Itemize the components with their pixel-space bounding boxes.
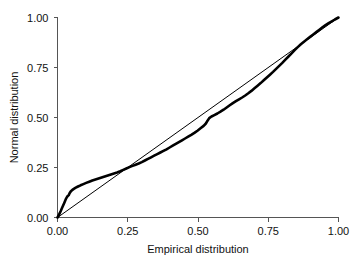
x-tick-label: 0.75 [258, 225, 279, 237]
chart-page: 0.000.250.500.751.000.000.250.500.751.00… [0, 0, 362, 265]
y-tick-label: 0.25 [27, 162, 48, 174]
y-tick-label: 0.50 [27, 112, 48, 124]
x-tick-label: 1.00 [328, 225, 349, 237]
y-tick-label: 0.00 [27, 212, 48, 224]
y-axis-title: Normal distribution [8, 72, 20, 164]
pp-plot: 0.000.250.500.751.000.000.250.500.751.00… [0, 0, 362, 265]
y-tick-label: 1.00 [27, 12, 48, 24]
x-axis-title: Empirical distribution [147, 243, 248, 255]
x-tick-label: 0.00 [47, 225, 68, 237]
x-tick-label: 0.25 [117, 225, 138, 237]
y-tick-label: 0.75 [27, 62, 48, 74]
x-tick-label: 0.50 [187, 225, 208, 237]
